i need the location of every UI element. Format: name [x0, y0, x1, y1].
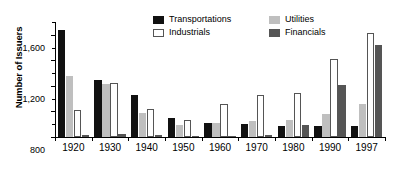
bar-transportations-1930 [94, 80, 101, 137]
x-tick-label-1930: 1930 [99, 142, 121, 153]
bar-financials-1997 [375, 45, 382, 137]
bar-transportations-1940 [131, 95, 138, 137]
bar-industrials-1940 [147, 109, 154, 137]
x-tick-label-1970: 1970 [246, 142, 268, 153]
legend-swatch-industrials-icon [153, 29, 164, 37]
bar-group-1990 [312, 22, 349, 137]
x-tick [238, 137, 239, 141]
bar-financials-1930 [118, 134, 125, 137]
bar-transportations-1997 [351, 126, 358, 137]
bar-financials-1990 [338, 85, 345, 137]
bar-financials-1920 [82, 135, 89, 137]
x-tick-label-1940: 1940 [136, 142, 158, 153]
x-tick [165, 137, 166, 141]
bar-transportations-1980 [278, 126, 285, 138]
legend-item-industrials[interactable]: Industrials [153, 28, 269, 37]
x-tick-label-1990: 1990 [319, 142, 341, 153]
bar-utilities-1930 [102, 84, 109, 137]
bar-industrials-1960 [220, 104, 227, 137]
legend-label: Transportations [169, 15, 231, 24]
bar-financials-1980 [302, 125, 309, 137]
y-tick-label: 800 [5, 145, 45, 155]
bar-transportations-1990 [314, 126, 321, 137]
legend-label: Utilities [285, 15, 314, 24]
legend-item-transportations[interactable]: Transportations [153, 15, 269, 24]
bar-chart: Number of Issuers 04008001,2001,600 1920… [0, 0, 393, 178]
bar-utilities-1997 [359, 104, 366, 137]
bar-group-1920 [55, 22, 92, 137]
legend-swatch-financials-icon [269, 29, 280, 37]
x-tick-label-1960: 1960 [209, 142, 231, 153]
bar-industrials-1920 [74, 110, 81, 137]
plot-area: 04008001,2001,600 1920193019401950196019… [55, 22, 385, 137]
legend-item-utilities[interactable]: Utilities [269, 15, 385, 24]
bar-transportations-1950 [168, 118, 175, 137]
x-tick [55, 137, 56, 141]
bar-group-1930 [92, 22, 129, 137]
bar-industrials-1930 [110, 83, 117, 137]
bar-utilities-1990 [322, 114, 329, 137]
bar-transportations-1920 [58, 30, 65, 137]
legend-swatch-utilities-icon [269, 16, 280, 24]
bar-utilities-1980 [286, 120, 293, 137]
bar-industrials-1970 [257, 95, 264, 137]
bar-utilities-1960 [212, 123, 219, 137]
bar-transportations-1960 [204, 123, 211, 137]
bar-industrials-1950 [184, 120, 191, 137]
x-tick [128, 137, 129, 141]
x-tick-label-1950: 1950 [172, 142, 194, 153]
bar-utilities-1950 [176, 125, 183, 137]
x-tick [385, 137, 386, 141]
bar-group-1970 [238, 22, 275, 137]
x-tick-label-1920: 1920 [62, 142, 84, 153]
y-tick-label: 1,600 [5, 43, 45, 53]
bar-financials-1970 [265, 135, 272, 137]
bar-industrials-1990 [330, 59, 337, 137]
x-tick [202, 137, 203, 141]
bar-utilities-1940 [139, 113, 146, 137]
bar-group-1940 [128, 22, 165, 137]
bar-group-1960 [202, 22, 239, 137]
x-tick-label-1980: 1980 [282, 142, 304, 153]
bar-group-1997 [348, 22, 385, 137]
legend-item-financials[interactable]: Financials [269, 28, 385, 37]
bar-group-1950 [165, 22, 202, 137]
bar-utilities-1920 [66, 76, 73, 137]
bar-financials-1940 [155, 135, 162, 137]
x-axis-line [55, 137, 385, 138]
x-tick [275, 137, 276, 141]
x-tick [312, 137, 313, 141]
bar-transportations-1970 [241, 124, 248, 137]
legend-label: Financials [285, 28, 326, 37]
bar-financials-1950 [192, 136, 199, 137]
bar-utilities-1970 [249, 121, 256, 137]
x-tick [348, 137, 349, 141]
y-tick-label: 1,200 [5, 94, 45, 104]
legend-label: Industrials [169, 28, 210, 37]
x-tick [92, 137, 93, 141]
bar-industrials-1997 [367, 33, 374, 137]
x-tick-label-1997: 1997 [356, 142, 378, 153]
legend-swatch-transportations-icon [153, 16, 164, 24]
y-axis-title: Number of Issuers [13, 13, 24, 123]
bar-industrials-1980 [294, 93, 301, 137]
legend: TransportationsUtilitiesIndustrialsFinan… [153, 13, 385, 39]
bar-group-1980 [275, 22, 312, 137]
bar-financials-1960 [228, 136, 235, 137]
